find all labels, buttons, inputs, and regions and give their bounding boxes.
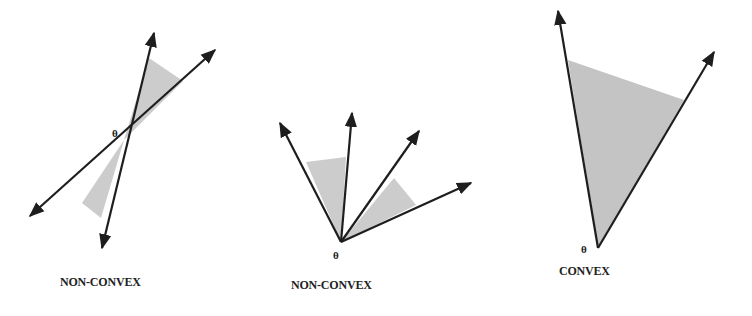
panel-label-1: NON-CONVEX	[60, 275, 141, 290]
angle-figure	[0, 0, 752, 316]
panel-label-3: CONVEX	[559, 264, 610, 279]
shaded-region-upper	[124, 58, 183, 140]
panel-non-convex-fan	[280, 113, 471, 242]
vertex-label-2: θ	[333, 249, 339, 261]
ray-steep	[102, 33, 154, 248]
ray-shallow	[30, 50, 215, 216]
vertex-label-1: θ	[112, 127, 118, 139]
panel-label-2: NON-CONVEX	[291, 278, 372, 293]
shaded-region-left	[306, 157, 346, 242]
panel-convex	[558, 11, 714, 248]
panel-non-convex-crossing	[30, 33, 215, 248]
shaded-region-convex	[568, 60, 684, 248]
vertex-label-3: θ	[581, 243, 587, 255]
